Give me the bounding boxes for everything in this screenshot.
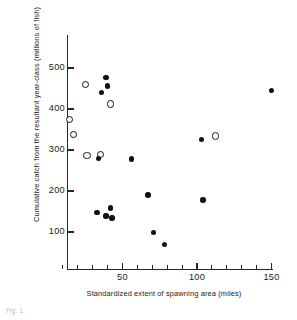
x-axis-tick-label: 150 <box>252 272 292 282</box>
scatter-plot-figure: Cumulative catch from the resultant year… <box>0 0 297 320</box>
data-point-filled <box>151 230 156 235</box>
y-axis-tick <box>68 108 74 109</box>
data-point-filled <box>109 215 114 220</box>
y-axis-tick-label: 100 <box>25 226 65 236</box>
y-axis-tick-label: 500 <box>25 62 65 72</box>
x-axis-tick <box>122 263 123 269</box>
y-axis-tick-label: 200 <box>25 185 65 195</box>
data-point-open <box>66 116 73 123</box>
x-axis-tick <box>196 263 197 269</box>
data-point-filled <box>162 242 167 247</box>
data-point-filled <box>94 210 99 215</box>
x-axis-tick <box>271 263 272 269</box>
data-point-filled <box>200 197 205 202</box>
x-axis-label: Standardized extent of spawning area (mi… <box>48 289 280 298</box>
figure-caption: Fig. 1. <box>6 307 25 314</box>
x-axis-minor-tick <box>211 265 212 269</box>
x-axis-minor-tick <box>92 265 93 269</box>
data-point-filled <box>129 156 134 161</box>
x-axis-minor-tick <box>62 265 63 269</box>
data-point-filled <box>105 83 110 88</box>
data-point-open <box>212 132 219 139</box>
data-point-filled <box>99 90 104 95</box>
x-axis-minor-tick <box>107 265 108 269</box>
y-axis-tick <box>68 149 74 150</box>
x-axis-line <box>67 269 273 270</box>
data-point-open <box>107 100 114 107</box>
y-axis-tick-label: 400 <box>25 103 65 113</box>
data-point-open <box>83 152 90 159</box>
data-point-filled <box>269 88 274 93</box>
data-point-filled <box>103 75 108 80</box>
y-axis-tick-label: 300 <box>25 144 65 154</box>
x-axis-tick-label: 100 <box>177 272 217 282</box>
x-axis-minor-tick <box>137 265 138 269</box>
x-axis-minor-tick <box>152 265 153 269</box>
data-point-filled <box>108 205 113 210</box>
y-axis-tick <box>68 67 74 68</box>
data-point-filled <box>103 213 108 218</box>
data-point-open <box>70 131 77 138</box>
x-axis-minor-tick <box>226 265 227 269</box>
x-axis-minor-tick <box>77 265 78 269</box>
x-axis-minor-tick <box>182 265 183 269</box>
data-point-filled <box>145 192 150 197</box>
data-point-open <box>82 81 89 88</box>
y-axis-line <box>67 35 68 270</box>
plot-area: 10020030040050050100150 <box>0 0 297 320</box>
x-axis-minor-tick <box>167 265 168 269</box>
data-point-filled <box>199 137 204 142</box>
y-axis-tick <box>68 190 74 191</box>
x-axis-minor-tick <box>241 265 242 269</box>
x-axis-minor-tick <box>256 265 257 269</box>
data-point-filled <box>96 156 101 161</box>
y-axis-tick <box>68 231 74 232</box>
x-axis-tick-label: 50 <box>103 272 143 282</box>
